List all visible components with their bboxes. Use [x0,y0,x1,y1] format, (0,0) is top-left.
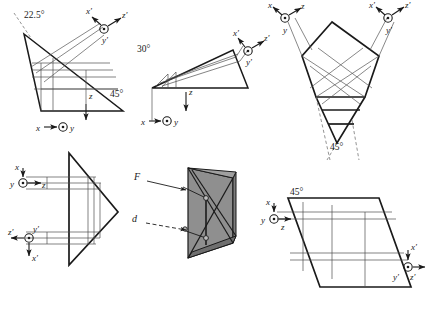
z-prime-label: z′ [7,227,15,237]
y-prime-label: y′ [385,25,393,35]
y-label: y [9,179,14,189]
x-label: x [267,0,272,10]
y-prime-dot-icon [247,50,250,53]
z-prime-label: z′ [409,272,417,282]
angle-label-30: 30° [137,44,151,54]
z-label: z [300,1,305,11]
x-label: x [35,123,40,133]
y-dot-icon [62,126,65,129]
x-prime-label: x′ [410,242,418,252]
y-prime-dot-icon [407,266,410,269]
x-prime-label: x′ [85,6,93,16]
y-prime-dot-icon [28,237,31,240]
y-label: y [69,123,74,133]
y-dot-icon [22,182,25,185]
ray-node-entry [183,227,187,231]
y-label: y [260,215,265,225]
z-prime-label: z′ [404,0,412,10]
y-prime-label: y′ [32,224,40,234]
z-prime-label: z′ [263,33,271,43]
angle-label-45: 45° [330,142,344,152]
x-label: x [14,162,19,172]
y-prime-dot-icon [387,17,390,20]
angle-label-22p5: 22.5° [24,10,45,20]
x-label: x [265,197,270,207]
y-dot-icon [273,218,276,221]
z-label: z [188,87,193,97]
y-prime-label: y′ [101,35,109,45]
y-prime-label: y′ [245,57,253,67]
y-prime-dot-icon [103,28,106,31]
y-label: y [282,25,287,35]
angle-label-45: 45° [110,89,124,99]
angle-label-45: 45° [290,187,304,197]
y-dot-icon [284,17,287,20]
y-prime-label: y′ [392,272,400,282]
force-label: F [133,171,141,182]
z-label: z [41,180,46,190]
ray-node-lower [204,236,209,241]
ray-node-upper [204,196,209,201]
y-label: y [173,117,178,127]
z-label: z [88,91,93,101]
z-prime-label: z′ [121,10,129,20]
figure-canvas: 22.5° 45° x′ z′ y′ x y z [0,0,429,315]
x-prime-label: x′ [232,28,240,38]
x-prime-label: x′ [368,0,376,10]
y-dot-icon [166,120,169,123]
x-prime-label: x′ [31,253,39,263]
x-label: x [140,117,145,127]
z-label: z [280,222,285,232]
prism-diagram-svg: 22.5° 45° x′ z′ y′ x y z [0,0,429,315]
